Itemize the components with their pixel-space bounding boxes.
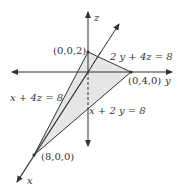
trace-xy-label: x + 2 y = 8 bbox=[89, 106, 146, 116]
z-axis-label: z bbox=[94, 13, 99, 23]
x-axis-label: x bbox=[27, 176, 33, 186]
trace-xz-label: x + 4z = 8 bbox=[10, 93, 63, 103]
plane-diagram: z y x (0,0,2) (0,4,0) (8,0,0) 2 y + 4z =… bbox=[0, 0, 180, 189]
point-z-intercept bbox=[86, 50, 89, 53]
y-intercept-label: (0,4,0) bbox=[128, 76, 161, 86]
trace-yz-label: 2 y + 4z = 8 bbox=[110, 52, 173, 62]
y-axis-label: y bbox=[165, 76, 171, 86]
plane-triangle bbox=[34, 52, 131, 155]
point-y-intercept bbox=[129, 70, 132, 73]
point-x-intercept bbox=[32, 153, 35, 156]
x-intercept-label: (8,0,0) bbox=[41, 152, 74, 162]
z-intercept-label: (0,0,2) bbox=[53, 46, 86, 56]
x-axis bbox=[17, 72, 88, 182]
